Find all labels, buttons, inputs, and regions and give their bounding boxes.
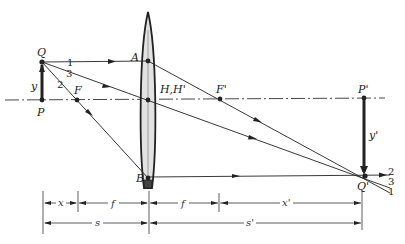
label-out-ray-1: 1 xyxy=(388,186,394,197)
label-ray-3: 3 xyxy=(66,68,72,79)
label-object-height: y xyxy=(30,80,38,93)
point-Q-prime xyxy=(362,173,367,178)
point-A xyxy=(146,59,151,64)
dim-f-back: f xyxy=(150,198,218,209)
point-B xyxy=(146,176,151,181)
svg-text:x: x xyxy=(58,197,64,208)
point-P xyxy=(40,98,45,103)
ray-3-arrowhead-right xyxy=(248,135,257,140)
dim-x: x xyxy=(44,197,77,208)
label-H: H,H' xyxy=(159,83,186,96)
ray-2-refracted-arrowhead xyxy=(232,174,240,178)
point-Q xyxy=(39,59,44,64)
ray-3 xyxy=(42,62,390,188)
optical-axis xyxy=(5,98,385,100)
svg-text:x': x' xyxy=(282,197,290,208)
svg-text:s': s' xyxy=(246,217,254,228)
ray-1-refracted-arrowhead xyxy=(253,117,262,123)
point-F-prime xyxy=(218,97,223,102)
point-H xyxy=(146,98,151,103)
point-F xyxy=(75,98,80,103)
label-Q-prime: Q' xyxy=(357,180,369,193)
ray-3-arrowhead-left xyxy=(102,84,111,88)
label-Q: Q xyxy=(37,46,46,59)
label-ray-2: 2 xyxy=(57,79,63,90)
dim-x-prime: x' xyxy=(220,197,361,208)
ray-1-refracted xyxy=(148,61,390,193)
label-ray-1: 1 xyxy=(67,57,73,68)
ray-2-refracted xyxy=(148,175,390,177)
label-F: F xyxy=(73,84,82,97)
ray-1-arrowhead xyxy=(108,59,116,64)
svg-text:s: s xyxy=(95,217,100,228)
point-P-prime xyxy=(362,96,367,101)
label-image-height: y' xyxy=(368,129,378,142)
dim-f-front: f xyxy=(79,198,148,209)
lens-bottom-edge xyxy=(145,180,152,188)
label-P: P xyxy=(36,106,45,119)
dim-s: s xyxy=(44,217,148,228)
label-F-prime: F' xyxy=(215,83,227,96)
svg-text:f: f xyxy=(110,198,117,209)
ray-2-out-arrowhead xyxy=(379,173,387,178)
dim-s-prime: s' xyxy=(150,217,361,228)
lens-ray-diagram: Q P F A H,H' B F' P' Q' y y' 1 3 2 2 3 1… xyxy=(0,0,405,244)
label-P-prime: P' xyxy=(357,83,368,96)
svg-text:f: f xyxy=(180,198,187,209)
label-A: A xyxy=(130,51,139,64)
label-B: B xyxy=(135,172,144,185)
